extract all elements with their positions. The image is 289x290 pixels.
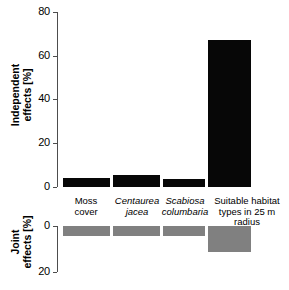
bar-independent-scabiosa-columbaria [163,179,205,187]
bar-joint-moss-cover [63,226,110,236]
bar-independent-suitable-habitat [208,40,251,187]
hierarchical-partitioning-chart: Independent effects [%] 80 60 40 20 0 Mo… [0,0,289,290]
bar-independent-centaurea-jacea [113,175,160,187]
category-label-moss-cover: Moss cover [58,196,114,217]
category-label-moss-cover-line1: Moss [58,196,114,207]
figure-caption [14,283,276,290]
category-label-suitable-habitat-line1: Suitable habitat [205,196,289,207]
bar-joint-centaurea-jacea [113,226,160,236]
joint-effects-plot-area [0,220,289,280]
bar-joint-scabiosa-columbaria [163,226,205,236]
bar-independent-moss-cover [63,178,110,187]
bar-joint-suitable-habitat [208,226,251,252]
independent-effects-plot-area [0,0,289,190]
category-label-moss-cover-line2: cover [58,207,114,218]
